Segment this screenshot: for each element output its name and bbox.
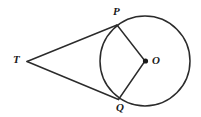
label-point-t: T [13, 54, 20, 65]
figure-canvas [0, 0, 201, 117]
radius-line-op [117, 25, 145, 61]
label-point-p: P [113, 6, 120, 17]
label-point-q: Q [116, 102, 124, 113]
radius-line-oq [119, 61, 146, 100]
geometry-figure: T P O Q [0, 0, 201, 117]
label-point-o: O [152, 55, 160, 66]
center-point-marker [143, 58, 148, 63]
